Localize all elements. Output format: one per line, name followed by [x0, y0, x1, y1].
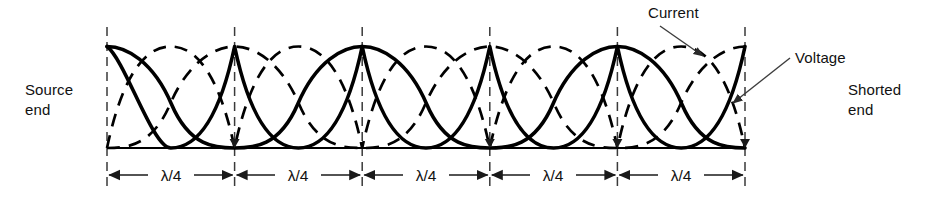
shorted-end-label-line1: Shorted — [848, 81, 901, 98]
standing-wave-diagram: λ/4 λ/4 λ/4 λ/4 λ/4 Source end Sho — [0, 0, 941, 222]
voltage-label: Voltage — [795, 49, 846, 66]
dimension-row: λ/4 λ/4 λ/4 λ/4 λ/4 — [109, 164, 743, 186]
standing-wave-figure: λ/4 λ/4 λ/4 λ/4 λ/4 Source end Sho — [0, 0, 941, 222]
callout-leaders — [660, 26, 790, 103]
source-end-label-line2: end — [25, 101, 50, 118]
current-label: Current — [648, 4, 699, 21]
dimension-label-3: λ/4 — [416, 167, 437, 184]
dimension-label-1: λ/4 — [161, 167, 182, 184]
dimension-label-2: λ/4 — [288, 167, 309, 184]
voltage-curve — [107, 47, 745, 149]
current-leader-line — [660, 26, 703, 56]
dimension-label-4: λ/4 — [543, 167, 564, 184]
dimension-label-5: λ/4 — [671, 167, 692, 184]
source-end-label-line1: Source — [25, 81, 73, 98]
shorted-end-label-line2: end — [848, 101, 873, 118]
